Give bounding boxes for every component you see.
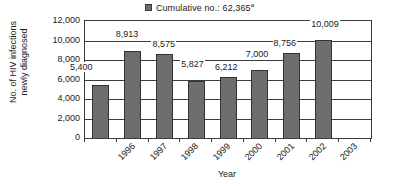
data-label-2000: 6,212	[214, 62, 239, 72]
x-tick-label-1999: 1999	[211, 141, 232, 162]
data-label-1999: 5,827	[180, 59, 205, 69]
y-tick-label: 6,000	[38, 74, 80, 84]
y-tick-label: 10,000	[38, 35, 80, 45]
bar-slot-empty	[339, 21, 371, 138]
data-label-2002: 8,756	[273, 38, 298, 48]
bar-slot-1999	[180, 21, 212, 138]
data-label-2003: 10,009	[310, 19, 340, 29]
bar-1998	[156, 54, 173, 138]
bar-1999	[188, 81, 205, 138]
x-tick-label-2003: 2003	[338, 141, 359, 162]
bar-2002	[283, 53, 300, 138]
bar-1997	[124, 51, 141, 138]
bar-slot-1996	[85, 21, 117, 138]
bar-slot-2001	[244, 21, 276, 138]
x-axis-tick-labels: 19961997199819992000200120022003	[84, 141, 371, 167]
x-axis-title: Year	[84, 169, 370, 180]
y-axis-title-line-2: newly diagnosed	[19, 28, 30, 95]
legend-entry-cumulative: Cumulative no.: 62,365a	[145, 2, 254, 13]
legend-label-superscript: a	[251, 2, 254, 8]
bar-1996	[92, 85, 109, 138]
y-tick-label: 0	[38, 132, 80, 142]
bar-slot-2000	[212, 21, 244, 138]
x-tick-label-1997: 1997	[148, 141, 169, 162]
bar-2000	[220, 77, 237, 138]
y-axis-title: No. of HIV infections newly diagnosed	[4, 0, 34, 127]
legend-label-text: Cumulative no.: 62,365	[156, 3, 251, 13]
y-axis-title-line-1: No. of HIV infections	[8, 21, 19, 103]
data-label-1998: 8,575	[151, 39, 176, 49]
y-tick-label: 2,000	[38, 113, 80, 123]
data-label-1997: 8,913	[115, 29, 140, 39]
bar-slot-2003	[307, 21, 339, 138]
x-tick-label-2000: 2000	[243, 141, 264, 162]
chart-legend: Cumulative no.: 62,365a	[0, 1, 399, 14]
legend-swatch-icon	[145, 4, 152, 11]
y-axis-tick-labels: 0 2,000 4,000 6,000 8,000 10,000 12,000	[38, 14, 80, 143]
x-tick-label-1996: 1996	[116, 141, 137, 162]
x-tick-label-2002: 2002	[306, 141, 327, 162]
data-label-1996: 5,400	[69, 62, 94, 72]
data-label-2001: 7,000	[245, 49, 270, 59]
bar-2001	[251, 70, 268, 138]
hiv-infections-bar-chart: Cumulative no.: 62,365a No. of HIV infec…	[0, 0, 399, 186]
x-tick-label-1998: 1998	[179, 141, 200, 162]
x-tick-label-2001: 2001	[275, 141, 296, 162]
y-tick-label: 4,000	[38, 93, 80, 103]
bar-2003	[315, 40, 332, 138]
legend-label: Cumulative no.: 62,365a	[156, 2, 254, 13]
y-tick-label: 12,000	[38, 15, 80, 25]
